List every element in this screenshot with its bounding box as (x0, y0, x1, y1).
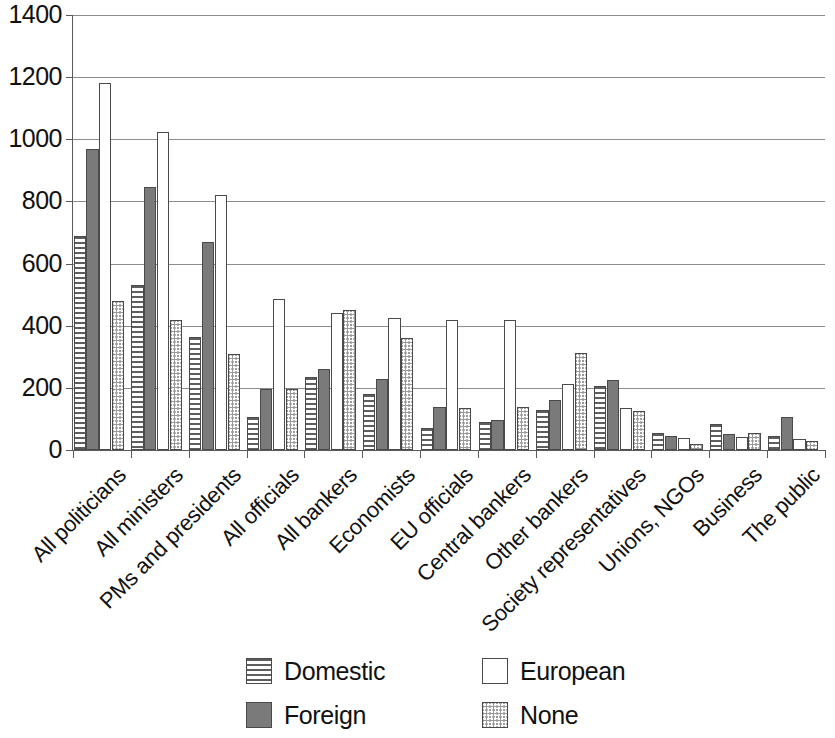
legend-item[interactable]: None (482, 702, 578, 728)
bar (215, 195, 227, 450)
y-axis-tick-mark (66, 450, 73, 451)
y-axis-tick-label: 1000 (0, 126, 62, 151)
bar (157, 132, 169, 450)
bar (446, 320, 458, 450)
bar-group (536, 15, 594, 450)
x-axis-tick-mark (536, 450, 537, 458)
y-axis-tick-label: 1200 (0, 64, 62, 89)
chart-legend: DomesticEuropeanForeignNone (246, 658, 666, 734)
bar (768, 436, 780, 450)
y-axis-tick-label: 800 (0, 188, 62, 213)
legend-item[interactable]: Domestic (246, 658, 385, 684)
bar (459, 408, 471, 450)
x-axis-tick-mark (247, 450, 248, 458)
x-axis-tick-mark (594, 450, 595, 458)
x-axis-tick-mark (189, 450, 190, 458)
bar-group (73, 15, 131, 450)
y-axis-tick-label: 600 (0, 251, 62, 276)
bar (343, 310, 355, 450)
y-axis-tick-mark (66, 139, 73, 140)
legend-label: None (520, 703, 578, 728)
bar (286, 389, 298, 450)
y-axis-tick-label: 1400 (0, 2, 62, 27)
legend-swatch-none (482, 702, 508, 728)
bar (363, 394, 375, 450)
bar (318, 369, 330, 450)
bar (305, 377, 317, 450)
bar (536, 410, 548, 450)
bar (710, 424, 722, 450)
bar (112, 301, 124, 450)
bar-group (189, 15, 247, 450)
bar (562, 384, 574, 450)
bar-group (478, 15, 536, 450)
bar (131, 285, 143, 450)
x-axis-tick-mark (73, 450, 74, 458)
bar (607, 380, 619, 450)
bar (517, 407, 529, 450)
y-axis-tick-mark (66, 388, 73, 389)
bar-group (767, 15, 825, 450)
bar-group (420, 15, 478, 450)
x-axis-tick-mark (651, 450, 652, 458)
legend-label: Domestic (284, 659, 385, 684)
x-axis-tick-mark (420, 450, 421, 458)
bar-group (247, 15, 305, 450)
bar (189, 337, 201, 450)
bar-group (304, 15, 362, 450)
bar (665, 436, 677, 450)
x-axis-tick-mark (362, 450, 363, 458)
bar (331, 313, 343, 450)
bar (86, 149, 98, 450)
y-axis-tick-label: 400 (0, 313, 62, 338)
bar (504, 320, 516, 450)
bar (260, 389, 272, 450)
bar (594, 386, 606, 450)
legend-swatch-domestic (246, 658, 272, 684)
y-axis-tick-mark (66, 264, 73, 265)
bar-group (709, 15, 767, 450)
bar-group (594, 15, 652, 450)
x-axis-tick-mark (304, 450, 305, 458)
bar (690, 444, 702, 450)
y-axis-tick-mark (66, 201, 73, 202)
x-axis-tick-mark (825, 450, 826, 458)
bar (678, 438, 690, 450)
x-axis-tick-mark (767, 450, 768, 458)
y-axis-tick-label: 200 (0, 375, 62, 400)
bar (723, 434, 735, 450)
y-axis-tick-label: 0 (0, 437, 62, 462)
x-axis-tick-mark (478, 450, 479, 458)
bar-group (362, 15, 420, 450)
bar (620, 408, 632, 450)
legend-label: Foreign (284, 703, 366, 728)
bar (170, 320, 182, 451)
legend-item[interactable]: European (482, 658, 625, 684)
bar (748, 433, 760, 450)
bar (247, 417, 259, 450)
bar (781, 417, 793, 450)
bar (549, 400, 561, 450)
bar-group (131, 15, 189, 450)
bar (401, 338, 413, 450)
legend-swatch-foreign (246, 702, 272, 728)
legend-label: European (520, 659, 625, 684)
bar (273, 299, 285, 450)
bar (806, 441, 818, 450)
y-axis-tick-mark (66, 77, 73, 78)
bar (575, 353, 587, 450)
bar (421, 428, 433, 450)
bar (228, 354, 240, 450)
bar-chart: 0200400600800100012001400 All politician… (0, 0, 835, 738)
plot-area (72, 15, 825, 451)
bar (433, 407, 445, 451)
legend-swatch-european (482, 658, 508, 684)
bar (388, 318, 400, 450)
bar (652, 433, 664, 450)
bar (74, 236, 86, 450)
bar (202, 242, 214, 450)
bar (633, 411, 645, 450)
y-axis-tick-mark (66, 326, 73, 327)
legend-item[interactable]: Foreign (246, 702, 366, 728)
bar (479, 422, 491, 450)
